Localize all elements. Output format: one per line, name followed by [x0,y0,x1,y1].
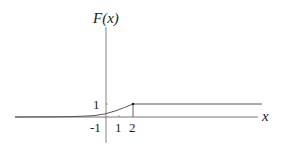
ytick-label-1: 1 [93,97,100,112]
point-2-1 [132,103,135,106]
xtick-label-2: 2 [129,120,136,135]
y-axis-label: F(x) [92,10,119,27]
x-axis-label: x [261,108,269,124]
cdf-chart: F(x) x -1 1 2 1 [0,0,286,148]
cdf-curve [15,104,133,117]
xtick-label-neg1: -1 [90,120,101,135]
xtick-label-1: 1 [115,120,122,135]
